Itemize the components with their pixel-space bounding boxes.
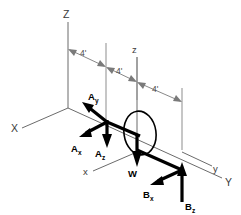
dimension-3-label: 4' [152,84,159,94]
global-axis-frame: Z X Y [11,8,232,188]
dimension-1-arrowhead-left [68,49,77,56]
axis-label-Z: Z [63,8,70,20]
axis-line-Y [68,108,222,178]
dimension-3: 4' [137,82,182,102]
force-Az-subscript: z [102,154,106,161]
dimension-3-arrowhead-left [137,82,146,89]
force-W-label: W [128,168,137,179]
axis-line-X [22,108,68,128]
force-Ax-arrowhead [79,128,92,137]
dimension-2-arrowhead-left [106,67,115,74]
axis-label-X: X [11,122,18,134]
dimension-1: 4' [68,48,106,67]
shaft-segment-disk-to-B [137,150,182,170]
dimension-2-arrowhead-right [128,75,137,82]
axis-label-Y: Y [225,176,232,188]
axis-line-y-lower [182,152,212,166]
free-body-diagram: Z X Y z x y [0,0,241,215]
dimension-2: 4' [106,66,137,82]
force-group-W: W [128,135,142,179]
force-Bz-label: B [185,201,192,212]
force-Az-arrowhead [102,134,112,148]
axis-label-y-lower: y [213,163,218,174]
dimension-1-arrowhead-right [97,60,106,67]
force-Bx-arrowhead [150,176,164,185]
force-Bx-label: B [143,189,150,200]
axis-label-z-lower: z [132,44,137,55]
dimension-1-label: 4' [80,48,87,58]
force-Ax-label: A [71,143,78,154]
force-Bz-subscript: z [192,207,196,214]
force-W-arrowhead [132,151,142,167]
force-Bx-subscript: x [150,195,154,202]
force-Az-label: A [95,148,102,159]
force-group-B: B x B z [137,150,196,214]
force-Ax-subscript: x [78,149,82,156]
dimension-2-label: 4' [116,66,123,76]
dimension-3-line [139,83,180,101]
diagram-canvas: Z X Y z x y [0,0,241,215]
force-Ay-label: A [88,91,95,102]
axis-label-x-lower: x [83,166,88,177]
dimension-3-arrowhead-right [173,95,182,102]
force-Ay-subscript: y [95,97,99,105]
